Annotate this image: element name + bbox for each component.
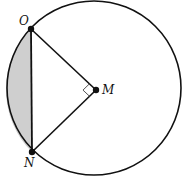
point-n	[29, 149, 35, 155]
chord-on	[31, 29, 32, 152]
point-m	[93, 87, 99, 93]
right-angle-marker	[83, 84, 90, 96]
label-n: N	[23, 156, 35, 170]
circle-diagram: O N M	[0, 0, 187, 177]
radius-nm	[32, 90, 96, 152]
radius-om	[31, 29, 96, 90]
label-o: O	[19, 14, 29, 28]
label-m: M	[101, 83, 115, 97]
